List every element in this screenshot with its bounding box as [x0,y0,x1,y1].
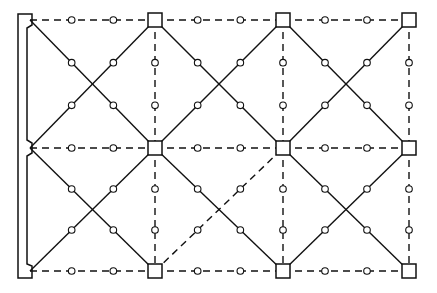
intermediate-point-circle [194,59,201,66]
truss-lattice-diagram [0,0,437,293]
intermediate-point-circle [152,102,159,109]
intermediate-point-circle [152,59,159,66]
intermediate-point-circle [68,268,75,275]
intermediate-point-circle [237,17,244,24]
intermediate-point-circle [280,186,287,193]
intermediate-point-circle [110,268,117,275]
intermediate-point-circle [364,59,371,66]
intermediate-point-circle [237,145,244,152]
intermediate-point-circle [406,102,413,109]
intermediate-point-circle [322,145,329,152]
intermediate-point-circle [237,186,244,193]
edges-layer [30,20,409,271]
intermediate-point-circle [364,227,371,234]
intermediate-point-circle [194,227,201,234]
intermediate-point-circle [406,59,413,66]
intermediate-point-circle [68,17,75,24]
intermediate-point-circle [364,186,371,193]
joint-node-square [148,13,162,27]
intermediate-point-circle [237,59,244,66]
intermediate-point-circle [110,145,117,152]
intermediate-point-circle [68,102,75,109]
intermediate-point-circle [322,227,329,234]
joint-node-square [148,141,162,155]
intermediate-point-circle [322,59,329,66]
intermediate-point-circle [364,268,371,275]
intermediate-point-circle [68,59,75,66]
intermediate-point-circle [110,59,117,66]
joint-node-square [402,13,416,27]
intermediate-point-circle [322,268,329,275]
intermediate-point-circle [280,227,287,234]
joint-node-square [402,141,416,155]
intermediate-point-circle [194,268,201,275]
intermediate-point-circle [194,17,201,24]
joint-node-square [276,141,290,155]
intermediate-point-circle [110,102,117,109]
intermediate-point-circle [364,145,371,152]
intermediate-point-circle [152,186,159,193]
intermediate-point-circle [110,186,117,193]
intermediate-point-circle [322,102,329,109]
intermediate-point-circle [364,102,371,109]
intermediate-point-circle [322,17,329,24]
joint-node-square [276,264,290,278]
intermediate-point-circle [237,268,244,275]
intermediate-point-circle [68,186,75,193]
joint-node-square [148,264,162,278]
intermediate-point-circle [280,59,287,66]
intermediate-point-circle [110,227,117,234]
intermediate-point-circle [364,17,371,24]
intermediate-point-circle [68,145,75,152]
left-support-bar [18,14,32,278]
intermediate-point-circle [237,227,244,234]
intermediate-point-circle [406,186,413,193]
intermediate-point-circle [194,145,201,152]
joint-node-square [402,264,416,278]
left-support-outline [18,14,32,278]
intermediate-point-circle [322,186,329,193]
intermediate-point-circle [68,227,75,234]
intermediate-point-circle [280,102,287,109]
intermediate-point-circle [152,227,159,234]
intermediate-point-circle [237,102,244,109]
intermediate-point-circle [406,227,413,234]
joint-node-square [276,13,290,27]
intermediate-point-circle [194,186,201,193]
intermediate-point-circle [110,17,117,24]
intermediate-point-circle [194,102,201,109]
